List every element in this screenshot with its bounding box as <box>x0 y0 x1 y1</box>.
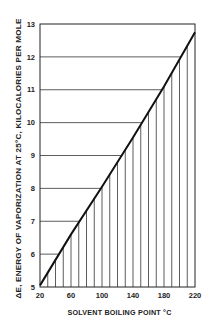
x-tick-label: 60 <box>67 291 75 300</box>
y-axis-ticks: 5678910111213 <box>27 20 35 292</box>
x-tick-label: 220 <box>189 291 202 300</box>
y-tick-label: 9 <box>31 151 35 160</box>
y-axis-label: ΔE, ENERGY OF VAPORIZATION AT 25°C, KILO… <box>14 19 23 299</box>
y-tick-label: 11 <box>27 85 35 94</box>
x-tick-label: 100 <box>96 291 109 300</box>
horizontal-gridlines <box>40 57 181 254</box>
y-tick-label: 10 <box>27 118 35 127</box>
y-tick-label: 12 <box>27 53 35 62</box>
x-tick-label: 20 <box>36 291 44 300</box>
chart-canvas: 5678910111213 2060100140180220 SOLVENT B… <box>0 0 209 328</box>
y-tick-label: 8 <box>31 184 35 193</box>
x-axis-ticks: 2060100140180220 <box>36 291 201 300</box>
y-tick-label: 6 <box>31 250 35 259</box>
y-tick-label: 7 <box>31 217 35 226</box>
x-tick-label: 140 <box>127 291 140 300</box>
y-tick-label: 13 <box>27 20 35 29</box>
y-tick-label: 5 <box>31 283 35 292</box>
x-axis-label: SOLVENT BOILING POINT °C <box>67 308 171 317</box>
x-tick-label: 180 <box>158 291 171 300</box>
